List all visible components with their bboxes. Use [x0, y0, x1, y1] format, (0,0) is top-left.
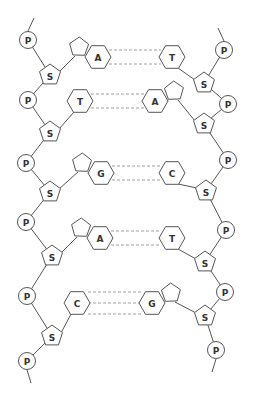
svg-text:P: P: [25, 36, 32, 46]
base-C: C: [64, 292, 90, 315]
svg-text:C: C: [74, 299, 81, 309]
svg-text:P: P: [24, 292, 31, 302]
svg-text:P: P: [24, 357, 31, 367]
svg-text:S: S: [47, 129, 53, 139]
svg-text:P: P: [225, 156, 232, 166]
dna-diagram-canvas: PPPPPPSSSSSPPPPPPSSSSSATTAGCATCG: [0, 0, 256, 395]
right-sugar: S: [195, 251, 216, 271]
left-phosphate: P: [18, 155, 35, 172]
svg-text:S: S: [202, 313, 208, 323]
svg-text:P: P: [223, 226, 230, 236]
svg-text:A: A: [97, 234, 104, 244]
right-sugar: S: [196, 180, 217, 200]
svg-text:C: C: [169, 169, 176, 179]
base-A: A: [142, 90, 168, 113]
base-A: A: [85, 46, 111, 69]
svg-text:T: T: [77, 97, 84, 107]
left-phosphate: P: [18, 214, 35, 231]
svg-text:S: S: [201, 121, 207, 131]
left-sugar: S: [40, 121, 61, 141]
right-sugar: S: [194, 113, 215, 133]
left-phosphate: P: [19, 288, 36, 305]
right-phosphate: P: [220, 152, 237, 169]
right-sugar: S: [194, 72, 215, 92]
svg-text:P: P: [222, 288, 229, 298]
dna-diagram: PPPPPPSSSSSPPPPPPSSSSSATTAGCATCG: [0, 0, 256, 395]
svg-text:P: P: [25, 96, 32, 106]
base-A: A: [87, 227, 113, 250]
svg-text:T: T: [169, 53, 176, 63]
svg-text:A: A: [95, 53, 102, 63]
left-phosphate: P: [20, 92, 37, 109]
svg-text:S: S: [203, 188, 209, 198]
svg-text:S: S: [47, 189, 53, 199]
svg-text:G: G: [97, 169, 104, 179]
left-sugar: S: [42, 245, 63, 265]
right-sugar: S: [195, 305, 216, 325]
svg-text:A: A: [152, 97, 159, 107]
svg-text:P: P: [221, 46, 228, 56]
base-T: T: [159, 227, 185, 250]
svg-text:T: T: [169, 234, 176, 244]
base-C: C: [159, 162, 185, 185]
left-sugar: S: [42, 325, 63, 345]
base-T: T: [159, 46, 185, 69]
right-phosphate: P: [220, 96, 237, 113]
svg-text:P: P: [23, 159, 30, 169]
svg-text:S: S: [49, 253, 55, 263]
svg-text:G: G: [148, 299, 155, 309]
left-phosphate: P: [20, 32, 37, 49]
right-phosphate: P: [217, 284, 234, 301]
right-phosphate: P: [218, 222, 235, 239]
svg-text:P: P: [23, 218, 30, 228]
base-G: G: [88, 162, 114, 185]
svg-text:S: S: [47, 72, 53, 82]
base-T: T: [67, 90, 93, 113]
molecules: PPPPPPSSSSSPPPPPPSSSSSATTAGCATCG: [18, 32, 237, 370]
left-sugar: S: [40, 181, 61, 201]
svg-text:S: S: [201, 80, 207, 90]
svg-text:P: P: [225, 100, 232, 110]
svg-text:P: P: [213, 346, 220, 356]
svg-text:S: S: [202, 259, 208, 269]
base-G: G: [139, 292, 165, 315]
right-phosphate: P: [216, 42, 233, 59]
svg-text:S: S: [49, 333, 55, 343]
left-sugar: S: [40, 64, 61, 84]
right-phosphate: P: [208, 342, 225, 359]
left-phosphate: P: [19, 353, 36, 370]
